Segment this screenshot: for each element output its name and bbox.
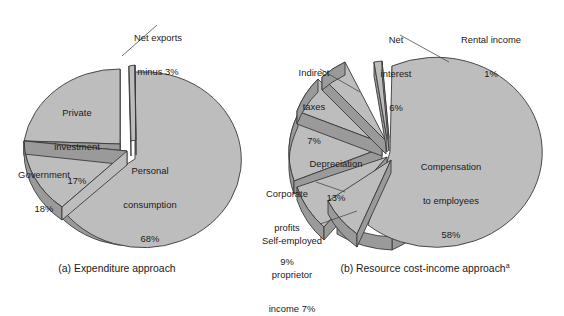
- label-rental-income: Rental income 1%: [443, 11, 539, 102]
- panel-a-caption: (a) Expenditure approach: [27, 262, 207, 275]
- panel-b-caption-text: (b) Resource cost-income approach: [340, 263, 505, 274]
- panel-b-caption: (b) Resource cost-income approacha: [300, 262, 550, 275]
- chart-panel-resource-cost-income-approach: Net interest 6% Rental income 1% Indirec…: [282, 0, 564, 292]
- label-government: Government 18%: [8, 146, 80, 237]
- label-compensation-to-employees: Compensation to employees 58%: [406, 138, 496, 263]
- chart-panel-expenditure-approach: .f { fill:#bdbdbd; stroke:#3a3a3a; strok…: [0, 0, 282, 292]
- label-net-exports: Net exports minus 3%: [112, 9, 204, 100]
- panel-b-caption-superscript: a: [506, 262, 510, 269]
- label-personal-consumption: Personal consumption 68%: [111, 142, 189, 267]
- label-net-interest: Net interest 6%: [366, 11, 426, 136]
